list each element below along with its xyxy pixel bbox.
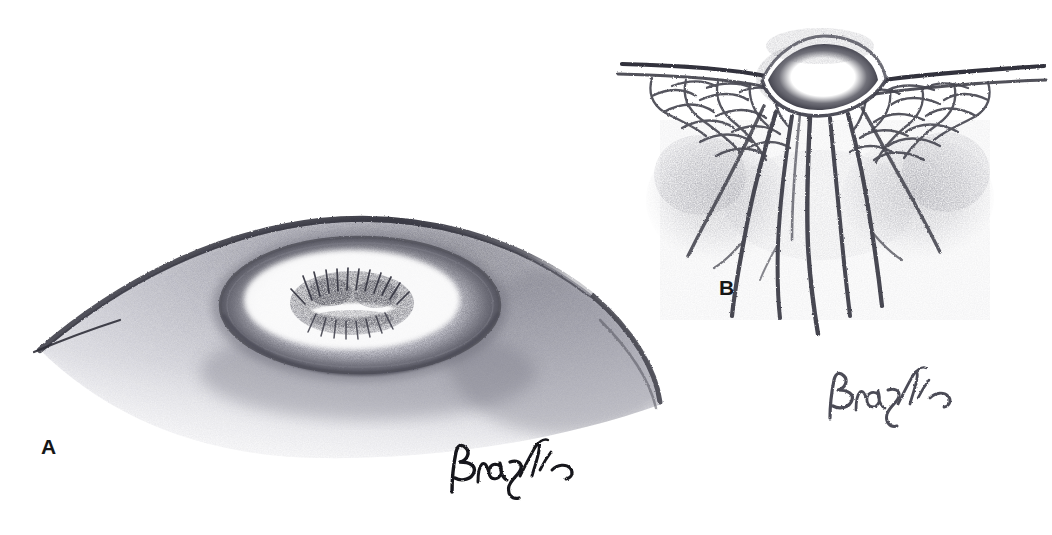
panel-label-a: A <box>41 436 56 457</box>
panel-b-root-grain <box>660 120 990 320</box>
opening-top-shoulder <box>766 28 874 64</box>
plug-clump-left <box>308 278 352 306</box>
plug-clump-right <box>354 280 398 308</box>
panel-label-b: B <box>719 277 734 298</box>
illustration-canvas: Brazis Brazis <box>0 0 1052 535</box>
plug-clump-bottom <box>310 310 394 328</box>
panel-b-opening <box>756 28 886 116</box>
